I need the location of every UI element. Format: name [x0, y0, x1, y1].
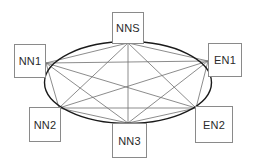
node-en1: EN1	[208, 43, 242, 77]
node-nn1: NN1	[14, 44, 46, 78]
links-group	[46, 43, 208, 123]
link-nn1-en1	[46, 61, 208, 63]
node-en2: EN2	[195, 106, 233, 143]
network-mesh-diagram: NNS NN1 EN1 NN2 NN3 EN2	[0, 0, 255, 164]
link-en1-nn2	[59, 61, 208, 108]
node-nns: NNS	[112, 12, 144, 44]
link-nn1-en2	[46, 63, 196, 108]
node-nn3: NN3	[112, 123, 147, 158]
node-nn2: NN2	[29, 107, 61, 142]
